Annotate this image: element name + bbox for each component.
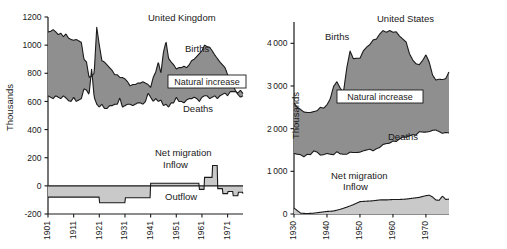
us-y-tick-label-3: 3 000	[267, 81, 288, 91]
us-net-migration-area	[294, 195, 449, 214]
population-components-figure: -200020040060080010001200190119111921193…	[0, 0, 507, 249]
uk-y-tick-label-7: 1200	[23, 12, 42, 22]
us-y-tick-label-0: 0	[283, 209, 288, 219]
us-y-tick-label-4: 4 000	[267, 38, 288, 48]
uk-y-tick-label-3: 400	[27, 125, 41, 135]
us-x-tick-label-1: 1940	[321, 221, 331, 240]
uk-x-tick-label-0: 1901	[42, 221, 52, 240]
us-x-tick-label-4: 1970	[420, 221, 430, 240]
uk-x-tick-label-5: 1951	[171, 221, 181, 240]
uk-x-tick-label-4: 1941	[145, 221, 155, 240]
us-x-tick-label-2: 1950	[354, 221, 364, 240]
us-x-tick-label-3: 1960	[387, 221, 397, 240]
uk-annotation-panel-title: United Kingdom	[148, 12, 216, 23]
us-x-tick-label-0: 1930	[288, 221, 298, 240]
uk-annotation-deaths: Deaths	[183, 103, 213, 114]
uk-annotation-net-migration: Net migration	[155, 147, 212, 158]
uk-x-tick-label-3: 1931	[119, 221, 129, 240]
uk-annotation-inflow: Inflow	[163, 159, 188, 170]
chart-panel-united-kingdom: -200020040060080010001200190119111921193…	[0, 0, 253, 249]
uk-natural-increase-label-text: Natural increase	[174, 77, 240, 87]
uk-y-tick-label-1: 0	[37, 181, 42, 191]
uk-annotation-births: Births	[185, 43, 210, 54]
uk-y-tick-label-6: 1000	[23, 40, 42, 50]
us-y-tick-label-1: 1 000	[267, 166, 288, 176]
chart-panel-united-states: 01 0002 0003 0004 0001930194019501960197…	[253, 0, 507, 249]
uk-y-tick-label-2: 200	[27, 153, 41, 163]
uk-x-tick-label-1: 1911	[68, 221, 78, 240]
uk-x-tick-label-2: 1921	[94, 221, 104, 240]
us-annotation-inflow: Inflow	[343, 181, 368, 192]
us-y-tick-label-2: 2 000	[267, 124, 288, 134]
uk-annotation-outflow: Outflow	[165, 191, 197, 202]
uk-y-axis-title: Thousands	[4, 84, 15, 131]
us-annotation-panel-title: United States	[377, 13, 434, 24]
us-annotation-deaths: Deaths	[388, 131, 418, 142]
uk-x-tick-label-6: 1961	[196, 221, 206, 240]
uk-x-tick-label-7: 1971	[222, 221, 232, 240]
uk-chart-svg: -200020040060080010001200190119111921193…	[0, 0, 253, 249]
us-natural-increase-label-text: Natural increase	[347, 92, 413, 102]
uk-y-tick-label-0: -200	[24, 209, 41, 219]
uk-y-tick-label-5: 800	[27, 68, 41, 78]
us-annotation-net-migration: Net migration	[331, 170, 388, 181]
us-annotation-births: Births	[325, 31, 350, 42]
uk-y-tick-label-4: 600	[27, 97, 41, 107]
us-y-axis-title: Thousands	[290, 92, 301, 139]
